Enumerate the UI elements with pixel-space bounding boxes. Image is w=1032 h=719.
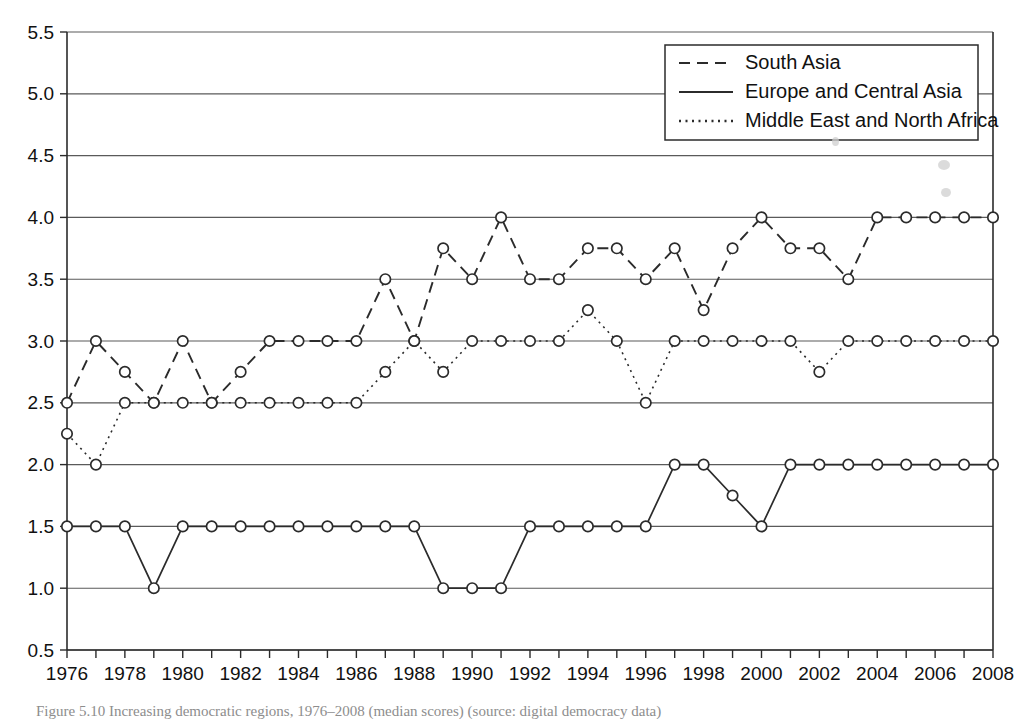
data-point-marker — [525, 336, 535, 346]
data-point-marker — [235, 398, 245, 408]
y-tick-label: 5.0 — [28, 83, 54, 104]
data-point-marker — [91, 459, 101, 469]
y-axis-tick-labels: 5.55.04.54.03.53.02.52.01.51.00.5 — [28, 22, 54, 661]
figure-caption: Figure 5.10 Increasing democratic region… — [36, 703, 996, 719]
data-point-marker — [959, 212, 969, 222]
data-point-marker — [62, 398, 72, 408]
data-point-marker — [988, 212, 998, 222]
data-point-marker — [872, 336, 882, 346]
x-tick-label: 2002 — [798, 663, 840, 684]
y-tick-label: 3.5 — [28, 269, 54, 290]
data-point-marker — [235, 367, 245, 377]
y-tick-label: 1.0 — [28, 578, 54, 599]
data-point-marker — [988, 459, 998, 469]
legend-label: Middle East and North Africa — [745, 109, 999, 131]
y-tick-label: 2.0 — [28, 454, 54, 475]
data-point-marker — [727, 336, 737, 346]
x-tick-label: 1998 — [682, 663, 724, 684]
data-point-marker — [206, 398, 216, 408]
data-point-marker — [322, 521, 332, 531]
data-point-marker — [322, 398, 332, 408]
data-point-marker — [467, 583, 477, 593]
data-point-marker — [698, 305, 708, 315]
data-point-marker — [901, 459, 911, 469]
y-tick-label: 4.0 — [28, 207, 54, 228]
series-south-asia — [62, 212, 998, 408]
data-point-marker — [91, 336, 101, 346]
data-point-marker — [583, 305, 593, 315]
x-tick-label: 1992 — [509, 663, 551, 684]
x-tick-label: 2000 — [740, 663, 782, 684]
data-point-marker — [814, 243, 824, 253]
data-point-marker — [669, 459, 679, 469]
data-point-marker — [496, 583, 506, 593]
data-point-marker — [62, 521, 72, 531]
data-point-marker — [380, 274, 390, 284]
data-point-marker — [756, 521, 766, 531]
x-tick-label: 1978 — [104, 663, 146, 684]
data-point-marker — [727, 243, 737, 253]
data-point-marker — [467, 336, 477, 346]
data-point-marker — [785, 243, 795, 253]
data-point-marker — [293, 336, 303, 346]
y-tick-label: 1.5 — [28, 516, 54, 537]
data-point-marker — [641, 521, 651, 531]
data-point-marker — [756, 212, 766, 222]
figure-container: 5.55.04.54.03.53.02.52.01.51.00.5 197619… — [0, 0, 1032, 719]
data-point-marker — [901, 336, 911, 346]
data-point-marker — [843, 336, 853, 346]
x-tick-label: 2008 — [972, 663, 1014, 684]
line-chart: 5.55.04.54.03.53.02.52.01.51.00.5 197619… — [0, 0, 1032, 719]
y-tick-label: 4.5 — [28, 145, 54, 166]
data-point-marker — [583, 243, 593, 253]
data-point-marker — [612, 243, 622, 253]
legend-label: South Asia — [745, 51, 842, 73]
data-point-marker — [959, 336, 969, 346]
data-point-marker — [814, 367, 824, 377]
data-point-marker — [178, 336, 188, 346]
data-point-marker — [785, 459, 795, 469]
data-point-marker — [380, 521, 390, 531]
data-point-marker — [785, 336, 795, 346]
x-tick-label: 2006 — [914, 663, 956, 684]
data-point-marker — [293, 398, 303, 408]
data-point-marker — [120, 398, 130, 408]
y-tick-label: 2.5 — [28, 392, 54, 413]
x-tick-label: 1980 — [162, 663, 204, 684]
data-point-marker — [206, 521, 216, 531]
data-point-marker — [409, 336, 419, 346]
data-point-marker — [438, 367, 448, 377]
y-tick-label: 5.5 — [28, 22, 54, 43]
data-point-marker — [149, 398, 159, 408]
x-tick-label: 1976 — [46, 663, 88, 684]
x-tick-label: 1986 — [335, 663, 377, 684]
legend-label: Europe and Central Asia — [745, 80, 963, 102]
data-point-marker — [843, 274, 853, 284]
data-point-marker — [959, 459, 969, 469]
x-tick-label: 1994 — [567, 663, 610, 684]
data-point-marker — [698, 459, 708, 469]
data-point-marker — [554, 336, 564, 346]
data-point-marker — [178, 398, 188, 408]
data-point-marker — [351, 336, 361, 346]
data-point-marker — [583, 521, 593, 531]
scan-speck — [832, 137, 839, 146]
data-point-marker — [496, 212, 506, 222]
data-point-marker — [930, 212, 940, 222]
data-point-marker — [930, 336, 940, 346]
data-point-marker — [698, 336, 708, 346]
data-point-marker — [612, 336, 622, 346]
x-tick-label: 1988 — [393, 663, 435, 684]
data-point-marker — [554, 521, 564, 531]
data-point-marker — [525, 521, 535, 531]
data-point-marker — [669, 336, 679, 346]
data-point-marker — [641, 398, 651, 408]
y-tick-label: 3.0 — [28, 331, 54, 352]
x-axis-tick-labels: 1976197819801982198419861988199019921994… — [46, 663, 1014, 684]
x-tick-label: 2004 — [856, 663, 899, 684]
data-point-marker — [727, 490, 737, 500]
data-point-marker — [264, 336, 274, 346]
data-point-marker — [612, 521, 622, 531]
data-point-marker — [120, 367, 130, 377]
data-point-marker — [264, 521, 274, 531]
